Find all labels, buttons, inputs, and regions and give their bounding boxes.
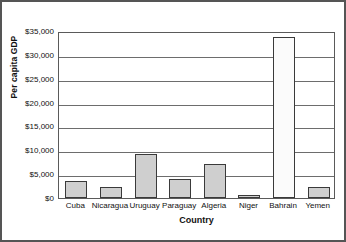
bar-uruguay — [135, 154, 157, 198]
bar-nicaragua — [100, 187, 122, 198]
y-axis-tick-labels: $0$5,000$10,000$15,000$20,000$25,000$30,… — [18, 30, 56, 198]
y-tick-label: $25,000 — [16, 74, 54, 83]
y-tick-label: $0 — [16, 194, 54, 203]
bar-cuba — [65, 181, 87, 198]
y-tick-label: $35,000 — [16, 27, 54, 36]
bar-paraguay — [169, 179, 191, 198]
y-tick-label: $15,000 — [16, 122, 54, 131]
y-tick-label: $10,000 — [16, 146, 54, 155]
x-tick-label-uruguay: Uruguay — [129, 201, 159, 210]
bar-yemen — [308, 187, 330, 198]
x-axis-title: Country — [58, 215, 335, 225]
bar-bahrain — [273, 37, 295, 198]
x-tick-label-paraguay: Paraguay — [162, 201, 196, 210]
bar-niger — [238, 195, 260, 198]
y-tick-label: $5,000 — [16, 170, 54, 179]
x-tick-label-nicaragua: Nicaragua — [92, 201, 128, 210]
x-tick-label-algeria: Algeria — [201, 201, 226, 210]
y-tick-label: $30,000 — [16, 50, 54, 59]
x-tick-label-cuba: Cuba — [66, 201, 85, 210]
plot-area — [58, 32, 335, 199]
x-axis-tick-labels: CubaNicaraguaUruguayParaguayAlgeriaNiger… — [58, 201, 335, 213]
bar-algeria — [204, 164, 226, 198]
y-tick-label: $20,000 — [16, 98, 54, 107]
bar-chart-figure: Per capita GDP $0$5,000$10,000$15,000$20… — [0, 0, 346, 242]
x-tick-label-niger: Niger — [239, 201, 258, 210]
bar-series — [59, 33, 334, 198]
x-tick-label-bahrain: Bahrain — [269, 201, 297, 210]
x-tick-label-yemen: Yemen — [305, 201, 330, 210]
